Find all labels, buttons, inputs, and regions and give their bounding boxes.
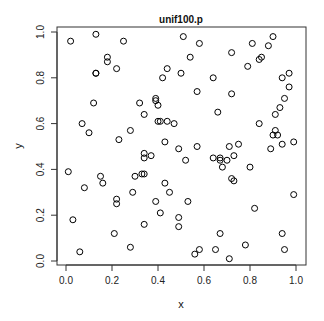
data-point [100,180,106,186]
x-tick-label: 0.6 [197,275,211,286]
chart-title: unif100.p [159,14,203,25]
data-point [79,121,85,127]
data-point [93,31,99,37]
data-point [187,54,193,60]
data-point [157,210,163,216]
data-point [164,66,170,72]
data-point [256,121,262,127]
data-point [217,231,223,237]
data-point [229,91,235,97]
data-points [65,31,296,261]
data-point [141,221,147,227]
data-point [229,50,235,56]
data-point [277,105,283,111]
data-point [114,201,120,207]
data-point [231,153,237,159]
y-tick-label: 0.6 [35,116,46,130]
data-point [247,164,253,170]
data-point [162,139,168,145]
data-point [111,231,117,237]
data-point [282,95,288,101]
data-point [127,127,133,133]
data-point [137,100,143,106]
data-point [185,198,191,204]
data-point [282,247,288,253]
data-point [226,256,232,262]
data-point [171,121,177,127]
data-point [141,111,147,117]
data-point [130,189,136,195]
data-point [226,144,232,150]
data-point [180,34,186,40]
data-point [268,146,274,152]
data-point [194,89,200,95]
data-point [91,100,97,106]
data-point [183,157,189,163]
data-point [81,185,87,191]
data-point [114,66,120,72]
data-point [176,146,182,152]
data-point [213,247,219,253]
data-point [252,205,258,211]
data-point [196,247,202,253]
x-tick-label: 0.4 [151,275,165,286]
data-point [164,118,170,124]
data-point [148,153,154,159]
data-point [210,75,216,81]
data-point [272,111,278,117]
data-point [104,59,110,65]
data-point [153,198,159,204]
data-point [160,75,166,81]
data-point [279,75,285,81]
data-point [116,137,122,143]
x-tick-label: 0.0 [59,275,73,286]
data-point [265,43,271,49]
data-point [279,231,285,237]
data-point [291,139,297,145]
data-point [291,192,297,198]
data-point [65,169,71,175]
data-point [286,84,292,90]
data-point [215,109,221,115]
data-point [98,173,104,179]
data-point [242,242,248,248]
y-tick-label: 0.8 [35,70,46,84]
y-tick-label: 0.2 [35,208,46,222]
y-axis-label: y [12,143,24,149]
data-point [86,130,92,136]
y-tick-label: 0.0 [35,254,46,268]
scatter-plot: unif100.p 0.00.20.40.60.81.0 0.00.20.40.… [0,0,324,321]
data-point [194,144,200,150]
x-tick-label: 0.8 [243,275,257,286]
data-point [270,34,276,40]
data-point [249,40,255,46]
data-point [210,155,216,161]
data-point [70,217,76,223]
data-point [176,224,182,230]
data-point [286,70,292,76]
x-tick-label: 0.2 [105,275,119,286]
data-point [162,180,168,186]
data-point [196,40,202,46]
x-tick-label: 1.0 [289,275,303,286]
data-point [68,38,74,44]
data-point [224,157,230,163]
data-point [236,141,242,147]
data-point [178,70,184,76]
data-point [176,214,182,220]
data-point [127,244,133,250]
y-axis: 0.00.20.40.60.81.0 [35,25,57,268]
data-point [219,164,225,170]
data-point [279,141,285,147]
x-axis-label: x [178,298,184,310]
data-point [192,251,198,257]
data-point [93,70,99,76]
y-tick-label: 1.0 [35,25,46,39]
x-axis: 0.00.20.40.60.81.0 [59,265,303,286]
data-point [245,63,251,69]
data-point [141,155,147,161]
data-point [132,173,138,179]
data-point [121,38,127,44]
y-tick-label: 0.4 [35,162,46,176]
data-point [77,249,83,255]
